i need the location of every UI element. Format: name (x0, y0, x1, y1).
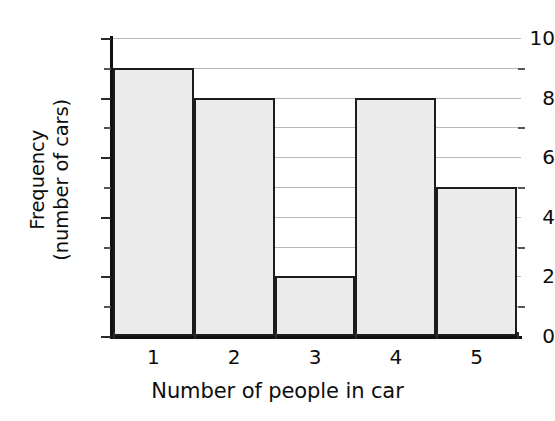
y-tick-label: 10 (459, 26, 555, 50)
y-axis-title-line-1: Frequency (26, 130, 49, 230)
bar (355, 98, 436, 336)
y-tick-major (101, 38, 111, 40)
y-tick-minor (104, 187, 111, 189)
x-tick-label: 3 (309, 345, 322, 369)
y-axis-title-line-2: (number of cars) (50, 99, 74, 261)
y-tick-major (101, 157, 111, 159)
y-tick-right (518, 68, 525, 70)
y-tick-major (101, 336, 111, 338)
x-tick (436, 332, 438, 339)
y-tick-right (518, 247, 525, 249)
x-tick (113, 332, 115, 339)
y-tick-minor (104, 127, 111, 129)
y-tick-label: 2 (459, 264, 555, 288)
bar (275, 276, 356, 336)
x-tick (275, 332, 277, 339)
y-tick-major (101, 276, 111, 278)
y-tick-label: 4 (459, 205, 555, 229)
bar (194, 98, 275, 336)
y-tick-minor (104, 68, 111, 70)
y-tick-right (518, 187, 525, 189)
y-tick-label: 6 (459, 145, 555, 169)
x-tick (194, 332, 196, 339)
x-tick-label: 1 (147, 345, 160, 369)
x-axis-title: Number of people in car (0, 379, 555, 403)
x-tick-label: 5 (470, 345, 483, 369)
x-tick (517, 332, 519, 339)
y-axis-title: Frequency (number of cars) (0, 0, 100, 360)
y-tick-major (101, 217, 111, 219)
x-tick (355, 332, 357, 339)
y-tick-minor (104, 306, 111, 308)
y-tick-major (101, 98, 111, 100)
y-tick-right (518, 127, 525, 129)
y-tick-right (518, 306, 525, 308)
y-tick-minor (104, 247, 111, 249)
bar (113, 68, 194, 336)
bars-layer (113, 38, 517, 336)
y-tick-label: 8 (459, 86, 555, 110)
x-tick-label: 4 (389, 345, 402, 369)
x-tick-label: 2 (228, 345, 241, 369)
bar-chart: Frequency (number of cars) 024681012345 … (0, 0, 555, 421)
